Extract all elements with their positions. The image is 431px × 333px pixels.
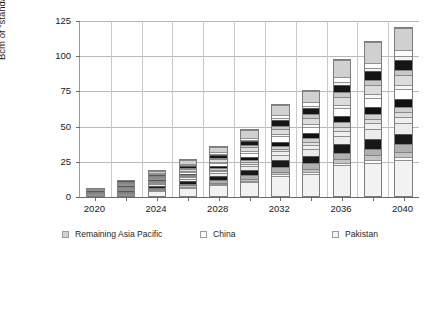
stacked-bar[interactable] [302, 90, 320, 197]
x-tick-mark [157, 197, 158, 201]
plot-area [79, 21, 419, 198]
x-tick-mark [373, 197, 374, 201]
bar-segment [241, 130, 257, 138]
stacked-bar[interactable] [209, 146, 227, 197]
bar-segment [395, 75, 411, 85]
bar-segment [272, 160, 288, 167]
bar-segment [395, 99, 411, 107]
y-tick-mark [76, 127, 80, 128]
y-tick-label: 100 [43, 51, 71, 61]
gridline-x [203, 21, 204, 197]
bar-segment [334, 60, 350, 77]
stacked-bar[interactable] [86, 188, 104, 197]
bar-segment [395, 160, 411, 196]
legend-label: China [213, 230, 235, 239]
y-tick-label: 25 [43, 157, 71, 167]
x-tick-mark [404, 197, 405, 201]
bar-segment [365, 107, 381, 114]
stacked-bar[interactable] [333, 59, 351, 197]
x-tick-label: 2020 [74, 204, 114, 214]
gridline-x [172, 21, 173, 197]
bar-segment [365, 42, 381, 63]
legend-swatch [62, 231, 69, 238]
stacked-bar[interactable] [117, 180, 135, 197]
y-tick-mark [76, 21, 80, 22]
x-tick-label: 2024 [136, 204, 176, 214]
bar-segment [395, 134, 411, 144]
x-tick-label: 2032 [259, 204, 299, 214]
gridline-x [111, 21, 112, 197]
bar-segment [365, 71, 381, 80]
x-tick-mark [280, 197, 281, 201]
stacked-bar[interactable] [179, 159, 197, 197]
x-tick-label: 2028 [198, 204, 238, 214]
chart-legend: Remaining Asia PacificChinaPakistanAustr… [62, 226, 431, 330]
bar-segment [334, 144, 350, 153]
bar-segment [395, 144, 411, 152]
bar-segment [365, 149, 381, 156]
y-tick-label: 75 [43, 86, 71, 96]
x-tick-mark [126, 197, 127, 201]
bar-segment [87, 195, 103, 196]
x-tick-mark [95, 197, 96, 201]
legend-label: Pakistan [345, 230, 378, 239]
y-tick-label: 50 [43, 122, 71, 132]
y-tick-label: 0 [43, 192, 71, 202]
chart-figure: Bcm of "standard gas" equivalent 0255075… [0, 0, 431, 333]
bar-segment [118, 195, 134, 196]
gridline-x [234, 21, 235, 197]
y-tick-mark [76, 56, 80, 57]
bar-segment [365, 85, 381, 94]
y-tick-label: 125 [43, 16, 71, 26]
legend-item[interactable]: China [200, 230, 332, 239]
bar-segment [395, 28, 411, 51]
bar-segment [365, 139, 381, 148]
bar-segment [334, 85, 350, 93]
bar-segment [334, 108, 350, 116]
bar-segment [303, 91, 319, 102]
bar-segment [365, 129, 381, 139]
legend-label: Remaining Asia Pacific [75, 230, 162, 239]
x-tick-mark [219, 197, 220, 201]
bar-segment [334, 97, 350, 105]
stacked-bar[interactable] [240, 129, 258, 197]
gridline-x [142, 21, 143, 197]
bar-segment [180, 188, 196, 196]
legend-swatch [332, 231, 339, 238]
x-tick-mark [311, 197, 312, 201]
bar-segment [272, 105, 288, 115]
legend-swatch [200, 231, 207, 238]
bar-segment [303, 149, 319, 156]
bar-segment [395, 123, 411, 134]
bar-segment [334, 165, 350, 196]
bar-segment [365, 98, 381, 107]
x-tick-mark [250, 197, 251, 201]
x-tick-mark [342, 197, 343, 201]
legend-item[interactable]: Remaining Asia Pacific [62, 230, 200, 239]
y-tick-mark [76, 197, 80, 198]
x-tick-mark [188, 197, 189, 201]
bar-segment [149, 191, 165, 196]
gridline-y [80, 21, 419, 22]
gridline-x [357, 21, 358, 197]
gridline-x [388, 21, 389, 197]
stacked-bar[interactable] [271, 104, 289, 197]
gridline-x [327, 21, 328, 197]
bar-segment [395, 60, 411, 70]
y-tick-mark [76, 91, 80, 92]
bar-segment [303, 156, 319, 163]
gridline-x [265, 21, 266, 197]
stacked-bar[interactable] [364, 41, 382, 197]
legend-item[interactable]: Pakistan [332, 230, 431, 239]
x-tick-label: 2040 [383, 204, 423, 214]
stacked-bar[interactable] [148, 170, 166, 197]
bar-segment [272, 176, 288, 196]
bar-segment [210, 185, 226, 196]
gridline-x [296, 21, 297, 197]
stacked-bar[interactable] [394, 27, 412, 197]
bar-segment [241, 182, 257, 196]
bar-segment [334, 136, 350, 144]
bar-segment [395, 89, 411, 99]
y-tick-mark [76, 162, 80, 163]
bar-segment [395, 117, 411, 124]
